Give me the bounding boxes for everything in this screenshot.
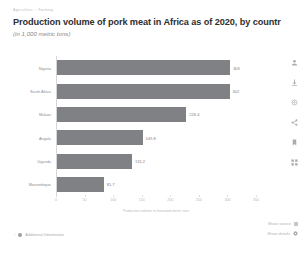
x-tick-label: 50	[83, 198, 87, 202]
share-icon[interactable]	[290, 118, 299, 127]
x-tick-label: 250	[196, 198, 202, 202]
x-tick-mark	[256, 195, 257, 197]
chart-footer: › Additional Information Show source Sho…	[0, 212, 307, 256]
bar[interactable]	[57, 84, 230, 99]
x-tick-mark	[85, 195, 86, 197]
bar-value-label: 131.2	[132, 159, 145, 164]
bar-value-label: 149.8	[143, 135, 156, 140]
bar-row: 303	[57, 60, 257, 75]
breadcrumb-leaf[interactable]: Farming	[38, 8, 53, 12]
bar-value-label: 81.7	[104, 182, 115, 187]
y-axis-label: Mozambique	[29, 182, 51, 187]
x-tick-label: 350	[253, 198, 259, 202]
download-icon[interactable]	[290, 78, 299, 87]
bar-row: 302	[57, 84, 257, 99]
statista-chart-page: Agriculture›Farming Production volume of…	[0, 0, 307, 256]
y-axis-label: South Africa	[30, 89, 51, 94]
gear-icon	[293, 231, 298, 236]
breadcrumb[interactable]: Agriculture›Farming	[13, 8, 53, 12]
bar[interactable]	[57, 177, 104, 192]
y-axis-label: Uganda	[37, 159, 51, 164]
settings-icon[interactable]	[290, 98, 299, 107]
y-axis-label: Nigeria	[39, 65, 51, 70]
additional-information-toggle[interactable]: › Additional Information	[14, 232, 64, 237]
show-details-label: Show details	[267, 231, 290, 236]
y-axis-category-labels: NigeriaSouth AfricaMalawiAngolaUgandaMoz…	[0, 56, 55, 196]
page-subtitle: (in 1,000 metric tons)	[13, 31, 70, 37]
x-tick-label: 0	[55, 198, 57, 202]
bar-row: 131.2	[57, 154, 257, 169]
plot-area: 303302226.4149.8131.281.7	[56, 56, 256, 196]
x-tick-label: 200	[167, 198, 173, 202]
chevron-right-icon: ›	[14, 232, 15, 237]
bar[interactable]	[57, 107, 186, 122]
breadcrumb-root[interactable]: Agriculture	[13, 8, 33, 12]
footer-links: Show source Show details	[267, 221, 298, 241]
user-icon[interactable]	[290, 58, 299, 67]
show-source-label: Show source	[268, 221, 291, 226]
bar-row: 226.4	[57, 107, 257, 122]
x-tick-mark	[227, 195, 228, 197]
bar[interactable]	[57, 130, 143, 145]
x-tick-label: 150	[139, 198, 145, 202]
x-tick-mark	[56, 195, 57, 197]
bar[interactable]	[57, 154, 132, 169]
bar-chart: NigeriaSouth AfricaMalawiAngolaUgandaMoz…	[0, 56, 275, 204]
bar-value-label: 302	[230, 89, 240, 94]
x-tick-mark	[113, 195, 114, 197]
show-details-link[interactable]: Show details	[267, 231, 298, 236]
tool-rail	[286, 58, 302, 167]
source-icon	[294, 222, 298, 226]
page-title: Production volume of pork meat in Africa…	[13, 17, 301, 28]
y-axis-label: Malawi	[39, 112, 51, 117]
y-axis-label: Angola	[39, 135, 51, 140]
x-tick-label: 100	[110, 198, 116, 202]
x-tick-label: 300	[224, 198, 230, 202]
grid-icon[interactable]	[290, 158, 299, 167]
show-source-link[interactable]: Show source	[267, 221, 298, 226]
x-tick-mark	[170, 195, 171, 197]
bar[interactable]	[57, 60, 230, 75]
x-tick-mark	[199, 195, 200, 197]
y-axis-line	[56, 56, 57, 196]
bar-value-label: 303	[230, 65, 240, 70]
bar-row: 149.8	[57, 130, 257, 145]
x-tick-mark	[142, 195, 143, 197]
bookmark-icon[interactable]	[290, 138, 299, 147]
additional-information-label: Additional Information	[25, 232, 64, 237]
bar-value-label: 226.4	[186, 112, 199, 117]
bar-row: 81.7	[57, 177, 257, 192]
info-dot-icon	[18, 233, 22, 237]
